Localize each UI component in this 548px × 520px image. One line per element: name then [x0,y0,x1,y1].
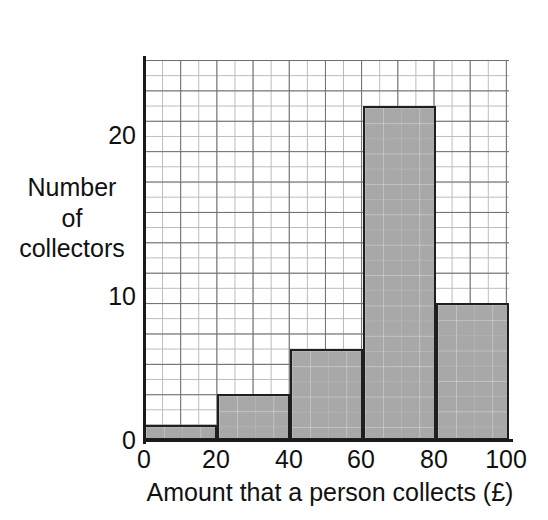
x-tick-label-80: 80 [404,447,464,472]
y-axis-title: Number of collectors [8,172,136,264]
y-axis-title-line-3: collectors [8,233,136,264]
y-axis-title-line-1: Number [8,172,136,203]
x-axis-title: Amount that a person collects (£) [130,478,530,507]
x-tick-label-60: 60 [331,447,391,472]
x-tick-label-20: 20 [186,447,246,472]
histogram-figure: 20 10 0 0 20 40 60 80 100 Number of coll… [0,0,548,520]
x-tick-label-0: 0 [114,447,174,472]
y-axis-title-line-2: of [8,203,136,234]
x-tick-label-40: 40 [259,447,319,472]
x-tick-label-100: 100 [476,447,536,472]
